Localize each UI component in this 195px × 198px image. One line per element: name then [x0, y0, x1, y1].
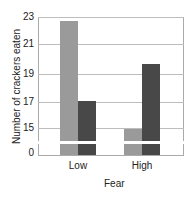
bar-low-dark-base	[78, 144, 96, 155]
y-tick-23: 23	[12, 12, 34, 22]
bar-low-light	[60, 21, 78, 141]
y-axis-label: Number of crackers eaten	[11, 27, 22, 147]
bar-high-light-base	[124, 144, 142, 155]
x-axis-label: Fear	[104, 178, 125, 189]
bar-high-dark	[142, 64, 160, 141]
bar-high-light	[124, 129, 142, 141]
y-tick-0: 0	[12, 148, 34, 158]
x-tick-low: Low	[58, 160, 98, 171]
gridline-23	[38, 17, 184, 18]
bar-low-dark	[78, 101, 96, 141]
bar-low-light-base	[60, 144, 78, 155]
x-tick-high: High	[122, 160, 162, 171]
bar-high-dark-base	[142, 144, 160, 155]
